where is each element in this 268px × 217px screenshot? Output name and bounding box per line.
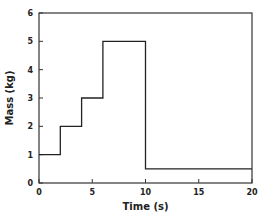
x-axis-label: Time (s) [122, 201, 168, 212]
step-chart: 051015200123456Time (s)Mass (kg) [0, 0, 268, 217]
y-tick-label: 2 [27, 122, 33, 131]
y-tick-label: 3 [27, 94, 33, 103]
y-tick-label: 6 [27, 9, 33, 18]
y-axis-label: Mass (kg) [4, 70, 15, 125]
y-tick-label: 1 [27, 151, 33, 160]
y-tick-label: 4 [27, 66, 33, 75]
y-tick-label: 0 [27, 179, 33, 188]
x-tick-label: 10 [140, 188, 152, 197]
x-tick-label: 0 [36, 188, 42, 197]
x-tick-label: 15 [193, 188, 205, 197]
x-tick-label: 20 [246, 188, 258, 197]
mass-step-line [39, 41, 252, 169]
y-tick-label: 5 [27, 37, 33, 46]
x-tick-label: 5 [89, 188, 95, 197]
